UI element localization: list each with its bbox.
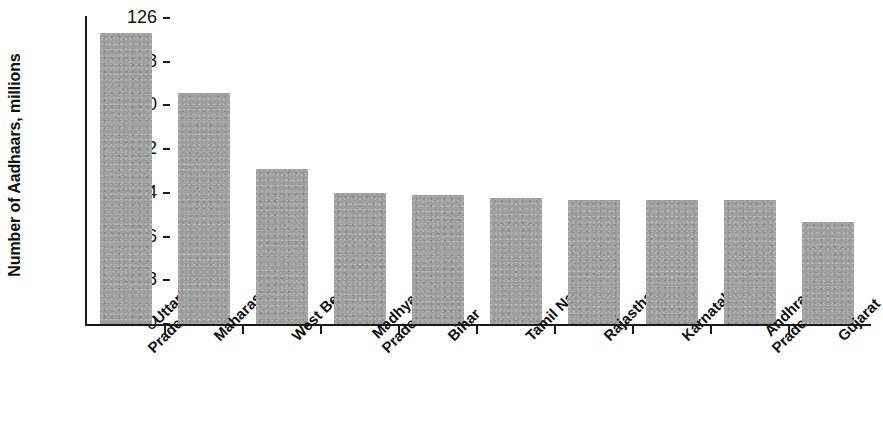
bar <box>412 195 464 324</box>
x-axis-tick-mark <box>788 326 790 334</box>
bar <box>256 169 308 324</box>
x-axis-tick-mark <box>164 326 166 334</box>
bar <box>646 200 698 324</box>
x-axis-tick-mark <box>554 326 556 334</box>
x-axis-tick-mark <box>710 326 712 334</box>
bar <box>490 198 542 324</box>
x-axis-tick-mark <box>632 326 634 334</box>
bar <box>178 93 230 324</box>
bar <box>100 33 152 324</box>
x-axis-tick-mark <box>398 326 400 334</box>
y-axis-ticks: 01836547290108126 <box>0 0 85 429</box>
bar <box>334 193 386 324</box>
x-axis-tick-mark <box>320 326 322 334</box>
bar <box>724 200 776 324</box>
x-axis-tick-mark <box>476 326 478 334</box>
bar <box>568 200 620 324</box>
x-axis-tick-mark <box>242 326 244 334</box>
bar <box>802 222 854 324</box>
